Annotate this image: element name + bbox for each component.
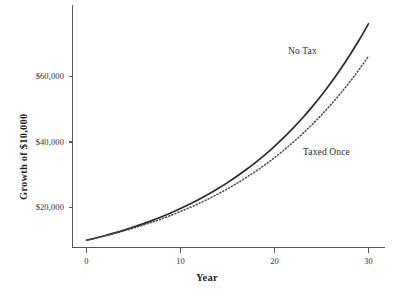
y-tick-label-20000: $20,000 xyxy=(20,202,64,212)
x-tick-label-0: 0 xyxy=(75,256,99,266)
series-line-no-tax xyxy=(87,24,369,241)
y-tick-label-60000: $60,000 xyxy=(20,71,64,81)
annotation-taxed-once: Taxed Once xyxy=(303,147,350,157)
x-axis-title: Year xyxy=(196,272,218,283)
chart-container: $20,000 $40,000 $60,000 0 10 20 30 Growt… xyxy=(0,0,401,294)
x-tick-label-30: 30 xyxy=(357,256,381,266)
x-tick-label-20: 20 xyxy=(263,256,287,266)
x-axis-ticks xyxy=(87,248,369,253)
x-tick-label-10: 10 xyxy=(169,256,193,266)
annotation-no-tax: No Tax xyxy=(288,46,317,56)
y-axis-title: Growth of $10,000 xyxy=(18,114,29,200)
